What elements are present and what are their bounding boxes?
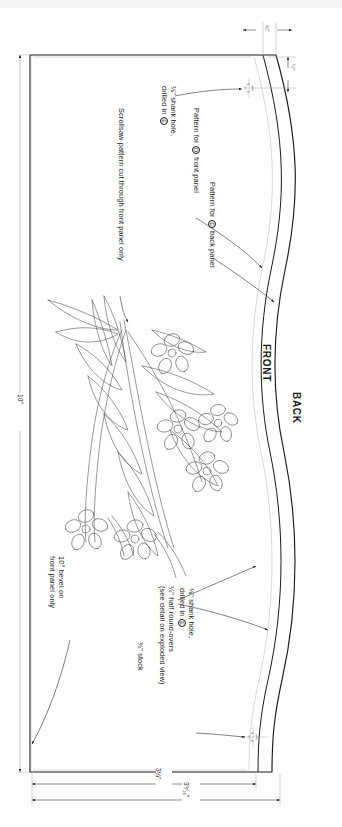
label-front: FRONT bbox=[261, 344, 272, 382]
dimension-bottom-outer-label: 3⁹⁄₁₆" bbox=[183, 782, 190, 797]
dimension-right-offset-label: ½" bbox=[290, 64, 296, 71]
part-mark-e: E bbox=[160, 117, 168, 125]
note-shank-hole-top: ⅛" shank hole, drilled in E bbox=[160, 86, 178, 136]
note-scrollsaw-pattern: Scrollsaw pattern cut through front pane… bbox=[117, 108, 125, 261]
bevel-line1: 10° bevel on bbox=[57, 556, 66, 598]
note-bevel: 10° bevel on front panel only bbox=[48, 556, 66, 608]
note-stock: ¾" stock bbox=[136, 642, 144, 671]
dimension-top-offset-label: ¾" bbox=[264, 25, 270, 32]
note-round-overs: ¼" half round-overs (see detail on explo… bbox=[158, 586, 176, 685]
roundover-line2: (see detail on exploded view) bbox=[158, 586, 167, 685]
note-pattern-back-panel: Pattern for E back panel bbox=[208, 182, 216, 268]
part-mark-e3: E bbox=[178, 619, 186, 627]
shank-hole-bottom-line1: ⅛" shank hole, bbox=[187, 588, 196, 638]
label-back: BACK bbox=[291, 392, 302, 424]
pattern-back-pre: Pattern for bbox=[208, 182, 217, 220]
pattern-front-pre: Pattern for bbox=[192, 108, 201, 146]
part-mark-e2: E bbox=[208, 220, 216, 228]
dimension-bottom-inner-label: 3¼" bbox=[155, 768, 162, 780]
pattern-back-post: back panel bbox=[208, 229, 217, 268]
shank-hole-top-line1: ⅛" shank hole, bbox=[169, 86, 178, 136]
dimension-height-label: 10" bbox=[17, 394, 24, 404]
roundover-line1: ¼" half round-overs bbox=[167, 586, 176, 652]
note-pattern-front-panel: Pattern for D front panel bbox=[192, 108, 200, 193]
part-mark-d: D bbox=[192, 146, 200, 154]
shank-hole-bottom-line2: drilled in bbox=[178, 588, 187, 619]
note-shank-hole-bottom: ⅛" shank hole, drilled in E bbox=[178, 588, 196, 638]
pattern-drawing-page: 10" ¾" ½" ⅛" shank hole, drilled in E Pa… bbox=[0, 0, 342, 827]
pattern-front-post: front panel bbox=[192, 155, 201, 193]
bevel-line2: front panel only bbox=[48, 556, 57, 608]
shank-hole-top-line2: drilled in bbox=[160, 86, 169, 117]
